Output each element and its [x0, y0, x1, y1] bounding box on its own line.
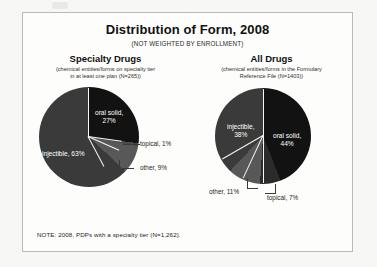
slice-label-other: other, 11%: [209, 188, 239, 195]
panel-all-drugs: All Drugs (chemical entities/forms in th…: [189, 53, 354, 214]
leader-line-other: [247, 178, 258, 189]
pie-separator: [263, 89, 264, 136]
figure-page: Distribution of Form, 2008 (NOT WEIGHTED…: [0, 0, 377, 267]
figure-subtitle: (NOT WEIGHTED BY ENROLLMENT): [23, 40, 352, 47]
slice-label-oral-solid: oral solid, 44%: [273, 132, 301, 148]
pie-chart-all: injectible, 38% oral solid, 44% other, 1…: [189, 82, 354, 214]
slice-label-topical: topical, 7%: [267, 194, 298, 201]
pie-chart-specialty: oral solid, 27% injectible, 63% topical,…: [23, 82, 188, 214]
pie-separator: [88, 88, 89, 138]
panel-specialty-drugs: Specialty Drugs (chemical entities/forms…: [23, 53, 188, 214]
panel-subtitle-all-line1: (chemical entities/forms in the Formular…: [221, 66, 322, 72]
slice-label-topical: topical, 1%: [140, 140, 171, 147]
figure-frame: Distribution of Form, 2008 (NOT WEIGHTED…: [22, 12, 353, 252]
panel-title-all: All Drugs: [189, 53, 354, 64]
leader-line-other: [119, 160, 134, 169]
figure-note: NOTE: 2008, PDPs with a specialty tier (…: [37, 231, 181, 238]
scan-artifact: [52, 2, 68, 9]
slice-label-injectible: injectible, 63%: [42, 150, 85, 158]
panel-subtitle-all: (chemical entities/forms in the Formular…: [189, 66, 354, 81]
panel-subtitle-all-line2: Reference File (N=1403)): [240, 73, 303, 79]
slice-label-oral-solid: oral solid, 27%: [95, 109, 123, 125]
slice-label-injectible: injectible, 38%: [227, 123, 255, 139]
panel-subtitle-specialty-line2: in at least one plan (N=265)): [70, 73, 141, 79]
page-title: Distribution of Form, 2008: [23, 22, 352, 37]
slice-label-other: other, 9%: [140, 164, 167, 171]
panel-subtitle-specialty-line1: (chemical entities/forms on specialty ti…: [56, 66, 155, 72]
panel-title-specialty: Specialty Drugs: [23, 53, 188, 64]
leader-line-topical: [265, 184, 276, 194]
panel-subtitle-specialty: (chemical entities/forms on specialty ti…: [23, 66, 188, 81]
pie-separator: [263, 135, 264, 183]
leader-line-topical: [123, 144, 140, 145]
